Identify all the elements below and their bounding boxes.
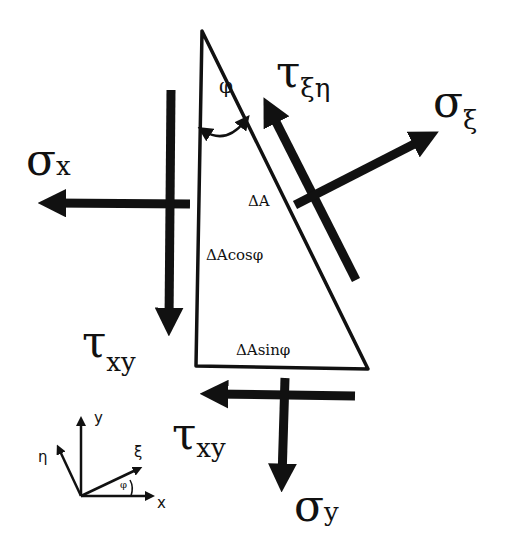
tau-xy-bottom-label: τxy (172, 412, 226, 456)
eta-axis (59, 449, 81, 496)
sigma-y-symbol: σ (294, 480, 324, 531)
hypotenuse-area-label: ΔA (248, 194, 270, 209)
sigma-y-label: σy (294, 484, 339, 528)
tau-xi-eta-label: τξη (276, 50, 330, 94)
sigma-y-arrow (282, 378, 285, 478)
sigma-xi-label: σξ (433, 80, 477, 124)
sigma-x-label: σx (26, 138, 71, 182)
bottom-area-label: ΔAsinφ (236, 343, 290, 358)
angle-arc-phi (204, 121, 245, 136)
tau-xy-left-subscript: xy (106, 347, 135, 377)
sigma-xi-arrow (295, 138, 426, 205)
tau-xy-left-arrow (169, 90, 171, 322)
tau-xy-bottom-symbol: τ (172, 408, 196, 459)
sigma-xi-symbol: σ (433, 76, 463, 127)
tau-xi-eta-symbol: τ (276, 46, 300, 97)
sigma-x-subscript: x (56, 151, 71, 181)
tau-xy-left-symbol: τ (82, 316, 106, 367)
tau-xi-eta-subscript: ξη (300, 73, 330, 103)
sigma-y-subscript: y (324, 497, 339, 527)
sigma-x-symbol: σ (26, 134, 56, 185)
eta-axis-label: η (38, 450, 48, 465)
x-axis-label: x (157, 496, 166, 511)
y-axis-label: y (94, 411, 103, 426)
vertical-area-label: ΔAcosφ (206, 248, 263, 263)
tau-xy-bottom-subscript: xy (196, 433, 225, 463)
tau-xy-left-label: τxy (82, 320, 136, 364)
axes-angle-label: φ (120, 480, 127, 490)
axes-angle-arc (130, 480, 132, 496)
xi-axis-label: ξ (134, 445, 142, 460)
sigma-xi-subscript: ξ (463, 105, 477, 135)
angle-phi-label: φ (219, 76, 233, 96)
xi-axis (81, 469, 138, 496)
